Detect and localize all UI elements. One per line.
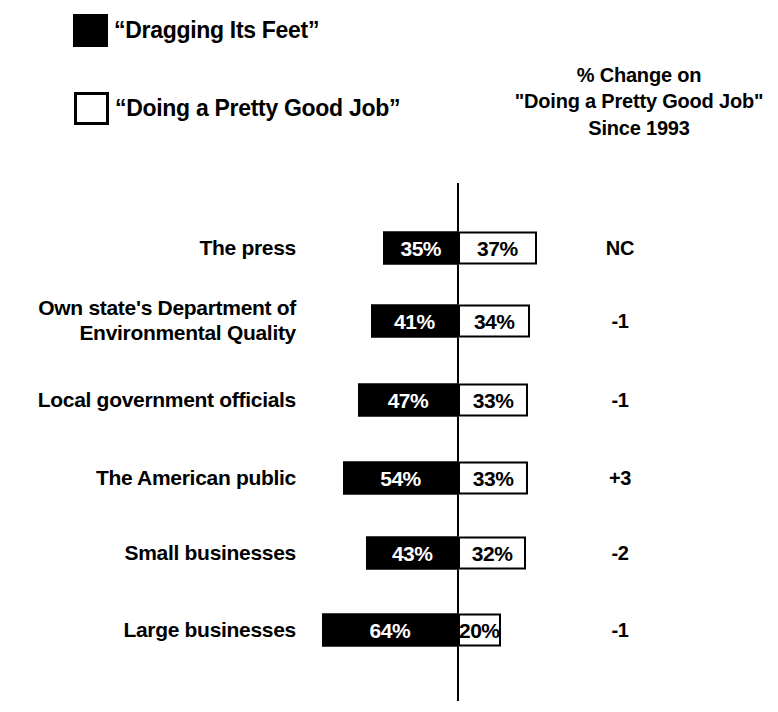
bar-segment-dragging-its-feet: 41% <box>371 305 458 338</box>
bar-value-label: 34% <box>474 309 515 333</box>
bar-segment-doing-a-pretty-good-job: 32% <box>458 537 526 570</box>
row-bar-group: 47%33% <box>358 384 528 417</box>
bar-value-label: 33% <box>473 388 514 412</box>
bar-segment-dragging-its-feet: 35% <box>383 232 458 265</box>
bar-value-label: 64% <box>370 618 411 642</box>
bar-value-label: 20% <box>459 618 500 642</box>
row-bar-group: 41%34% <box>371 305 531 338</box>
bar-value-label: 37% <box>477 236 518 260</box>
bar-segment-doing-a-pretty-good-job: 20% <box>458 614 501 647</box>
bar-segment-doing-a-pretty-good-job: 37% <box>458 232 537 265</box>
bar-value-label: 33% <box>473 466 514 490</box>
chart-plot-area: The press35%37%NCOwn state's Department … <box>0 0 778 712</box>
bar-value-label: 54% <box>380 466 421 490</box>
row-bar-group: 64%20% <box>322 614 501 647</box>
row-change-value: -2 <box>580 542 660 565</box>
bar-segment-dragging-its-feet: 54% <box>343 462 458 495</box>
row-category-label: Large businesses <box>123 618 296 643</box>
row-bar-group: 35%37% <box>383 232 536 265</box>
bar-segment-dragging-its-feet: 64% <box>322 614 458 647</box>
bar-segment-doing-a-pretty-good-job: 34% <box>458 305 530 338</box>
row-category-label: Own state's Department of Environmental … <box>38 296 296 346</box>
row-change-value: +3 <box>580 467 660 490</box>
bar-value-label: 47% <box>388 388 429 412</box>
row-bar-group: 43%32% <box>366 537 526 570</box>
bar-segment-doing-a-pretty-good-job: 33% <box>458 462 528 495</box>
row-category-label: Small businesses <box>125 541 296 566</box>
row-bar-group: 54%33% <box>343 462 528 495</box>
row-category-label: The American public <box>96 466 296 491</box>
bar-value-label: 41% <box>394 309 435 333</box>
bar-segment-doing-a-pretty-good-job: 33% <box>458 384 528 417</box>
row-category-label: Local government officials <box>38 388 296 413</box>
bar-segment-dragging-its-feet: 43% <box>366 537 458 570</box>
row-category-label: The press <box>199 236 296 261</box>
bar-value-label: 43% <box>392 541 433 565</box>
row-change-value: -1 <box>580 619 660 642</box>
row-change-value: -1 <box>580 310 660 333</box>
row-change-value: -1 <box>580 389 660 412</box>
row-change-value: NC <box>580 237 660 260</box>
bar-segment-dragging-its-feet: 47% <box>358 384 458 417</box>
bar-value-label: 35% <box>400 236 441 260</box>
bar-value-label: 32% <box>472 541 513 565</box>
